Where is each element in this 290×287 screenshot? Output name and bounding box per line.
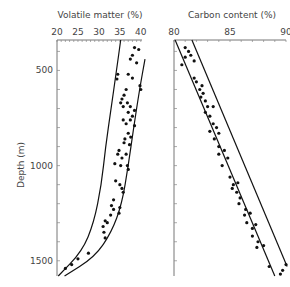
- y-tick-label: 1000: [30, 161, 53, 171]
- data-point: [184, 56, 187, 59]
- data-point: [118, 183, 121, 186]
- data-point: [213, 137, 216, 140]
- data-point: [133, 124, 136, 127]
- data-point: [128, 143, 131, 146]
- data-point: [254, 223, 257, 226]
- data-point: [187, 50, 190, 53]
- data-point: [198, 88, 201, 91]
- data-point: [245, 221, 248, 224]
- data-point: [114, 179, 117, 182]
- x-tick-label: 85: [224, 27, 235, 37]
- envelope-curve: [192, 40, 287, 266]
- data-point: [120, 187, 123, 190]
- data-point: [232, 183, 235, 186]
- data-point: [208, 115, 211, 118]
- data-point: [127, 168, 130, 171]
- data-point: [102, 231, 105, 234]
- data-point: [217, 132, 220, 135]
- data-point: [120, 97, 123, 100]
- data-point: [122, 94, 125, 97]
- data-point: [256, 240, 259, 243]
- data-point: [262, 244, 265, 247]
- data-point: [204, 99, 207, 102]
- data-point: [208, 130, 211, 133]
- x-tick-label: 35: [114, 27, 125, 37]
- data-point: [138, 84, 141, 87]
- data-point: [195, 80, 198, 83]
- data-point: [127, 111, 130, 114]
- data-point: [127, 73, 130, 76]
- volatile-matter-panel: 202530354050010001500: [30, 27, 147, 276]
- data-point: [235, 191, 238, 194]
- data-point: [193, 59, 196, 62]
- data-point: [117, 212, 120, 215]
- y-tick-label: 500: [36, 65, 53, 75]
- y-tick-label: 1500: [30, 256, 53, 266]
- data-point: [106, 221, 109, 224]
- data-point: [212, 105, 215, 108]
- data-point: [226, 156, 229, 159]
- data-point: [255, 246, 258, 249]
- data-point: [217, 145, 220, 148]
- data-point: [249, 212, 252, 215]
- coal-rank-depth-chart: Volatile matter (%) Carbon content (%) D…: [0, 0, 290, 287]
- x-tick-label: 25: [72, 27, 83, 37]
- data-point: [129, 105, 132, 108]
- data-point: [117, 149, 120, 152]
- envelope-curve: [58, 40, 120, 276]
- data-point: [200, 84, 203, 87]
- data-point: [109, 213, 112, 216]
- data-point: [70, 263, 73, 266]
- data-point: [104, 236, 107, 239]
- data-point: [115, 77, 118, 80]
- data-point: [199, 95, 202, 98]
- left-panel-title: Volatile matter (%): [58, 10, 143, 20]
- data-point: [127, 132, 130, 135]
- data-point: [204, 111, 207, 114]
- data-point: [87, 252, 90, 255]
- x-tick-label: 40: [135, 27, 147, 37]
- data-point: [122, 191, 125, 194]
- data-point: [125, 88, 128, 91]
- data-point: [131, 76, 134, 79]
- data-point: [122, 141, 125, 144]
- data-point: [126, 101, 129, 104]
- data-point: [193, 76, 196, 79]
- x-tick-label: 30: [93, 27, 105, 37]
- data-point: [180, 63, 183, 66]
- right-panel-title: Carbon content (%): [188, 10, 276, 20]
- data-point: [126, 164, 129, 167]
- data-point: [223, 149, 226, 152]
- data-point: [237, 202, 240, 205]
- data-point: [135, 61, 138, 64]
- data-point: [221, 164, 224, 167]
- data-point: [119, 101, 122, 104]
- data-point: [131, 54, 134, 57]
- data-point: [122, 118, 125, 121]
- data-point: [118, 206, 121, 209]
- data-point: [101, 225, 104, 228]
- data-point: [125, 122, 128, 125]
- data-point: [238, 196, 241, 199]
- data-point: [228, 175, 231, 178]
- data-point: [139, 88, 142, 91]
- data-point: [133, 46, 136, 49]
- data-point: [251, 227, 254, 230]
- data-point: [189, 54, 192, 57]
- data-point: [76, 257, 79, 260]
- data-point: [112, 208, 115, 211]
- data-point: [281, 269, 284, 272]
- x-tick-label: 90: [280, 27, 290, 37]
- data-point: [236, 181, 239, 184]
- data-point: [137, 48, 140, 51]
- x-tick-label: 80: [168, 27, 180, 37]
- data-point: [231, 187, 234, 190]
- data-point: [129, 135, 132, 138]
- data-point: [116, 73, 119, 76]
- data-point: [112, 198, 115, 201]
- data-point: [122, 105, 125, 108]
- data-point: [110, 204, 113, 207]
- data-point: [215, 126, 218, 129]
- data-point: [120, 156, 123, 159]
- data-point: [251, 234, 254, 237]
